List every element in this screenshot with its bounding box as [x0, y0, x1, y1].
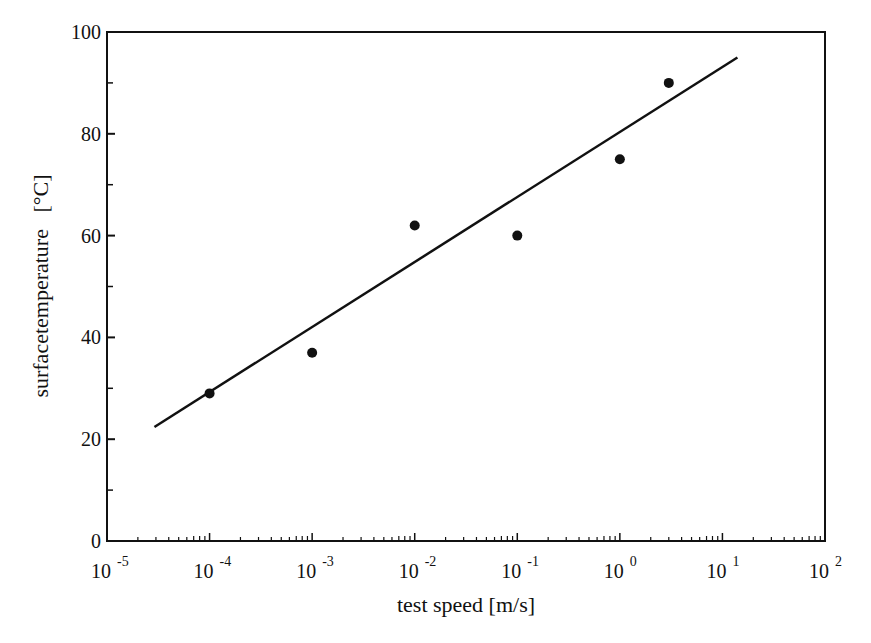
x-tick-label: 10 — [501, 560, 521, 582]
x-tick-exponent: -4 — [220, 554, 232, 569]
y-tick-label: 0 — [91, 530, 101, 552]
x-tick-exponent: -1 — [527, 554, 539, 569]
x-tick-label: 10 — [399, 560, 419, 582]
x-tick-exponent: 1 — [732, 554, 739, 569]
x-tick-label: 10 — [91, 560, 111, 582]
x-tick-label: 10 — [809, 560, 829, 582]
x-tick-exponent: -2 — [425, 554, 437, 569]
y-tick-label: 80 — [81, 123, 101, 145]
plot-frame — [107, 32, 825, 541]
fit-line — [154, 57, 737, 427]
fit-line-path — [154, 57, 737, 427]
y-tick-label: 60 — [81, 225, 101, 247]
data-point — [205, 388, 215, 398]
x-axis-tick-labels: 10-510-410-310-210-1100101102 — [91, 554, 842, 582]
y-axis-tick-labels: 020406080100 — [71, 21, 101, 552]
x-tick-exponent: -3 — [322, 554, 334, 569]
y-tick-label: 40 — [81, 326, 101, 348]
x-tick-label: 10 — [296, 560, 316, 582]
x-tick-label: 10 — [706, 560, 726, 582]
y-tick-label: 20 — [81, 428, 101, 450]
x-tick-label: 10 — [194, 560, 214, 582]
x-tick-label: 10 — [604, 560, 624, 582]
y-axis-title: surfacetemperature [°C] — [28, 174, 53, 397]
x-axis-ticks — [107, 533, 825, 541]
x-tick-exponent: -5 — [117, 554, 129, 569]
data-point — [512, 231, 522, 241]
chart: 020406080100 10-510-410-310-210-11001011… — [0, 0, 871, 643]
y-axis-ticks — [107, 32, 115, 541]
x-tick-exponent: 2 — [835, 554, 842, 569]
x-tick-exponent: 0 — [630, 554, 637, 569]
data-point — [410, 220, 420, 230]
data-point — [307, 348, 317, 358]
x-axis-title: test speed [m/s] — [397, 592, 535, 617]
y-tick-label: 100 — [71, 21, 101, 43]
data-point — [615, 154, 625, 164]
data-point — [664, 78, 674, 88]
